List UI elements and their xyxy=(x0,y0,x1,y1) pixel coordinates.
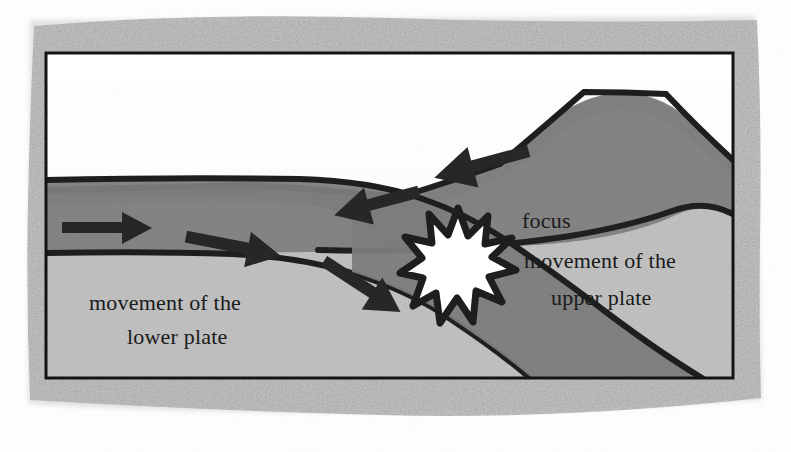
subduction-diagram-svg: focus movement of the upper plate moveme… xyxy=(0,0,791,452)
lower-plate-label-line2: lower plate xyxy=(127,324,228,349)
lower-plate-label-line1: movement of the xyxy=(89,290,241,315)
picture-area: focus movement of the upper plate moveme… xyxy=(46,53,733,378)
figure-root: focus movement of the upper plate moveme… xyxy=(0,0,791,452)
upper-plate-label-line1: movement of the xyxy=(524,248,676,273)
focus-label: focus xyxy=(522,208,571,233)
upper-plate-label-line2: upper plate xyxy=(551,285,652,310)
